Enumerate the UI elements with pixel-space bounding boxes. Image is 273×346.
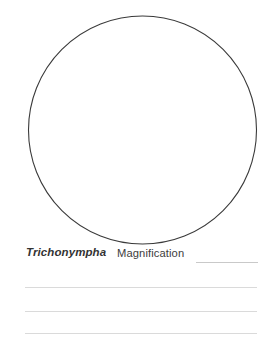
drawing-area[interactable] bbox=[0, 0, 273, 248]
magnification-label: Magnification bbox=[117, 247, 184, 259]
microscope-drawing-worksheet: Trichonympha Magnification bbox=[0, 0, 273, 346]
circle-outline bbox=[29, 16, 257, 244]
notes-line-1[interactable] bbox=[25, 287, 257, 288]
notes-line-3[interactable] bbox=[25, 333, 257, 334]
field-of-view-circle-icon bbox=[0, 0, 273, 248]
caption-row: Trichonympha Magnification bbox=[0, 246, 273, 270]
notes-lines bbox=[0, 270, 273, 346]
magnification-input-rule[interactable] bbox=[196, 262, 258, 263]
specimen-name-label: Trichonympha bbox=[26, 246, 106, 258]
notes-line-2[interactable] bbox=[25, 311, 257, 312]
